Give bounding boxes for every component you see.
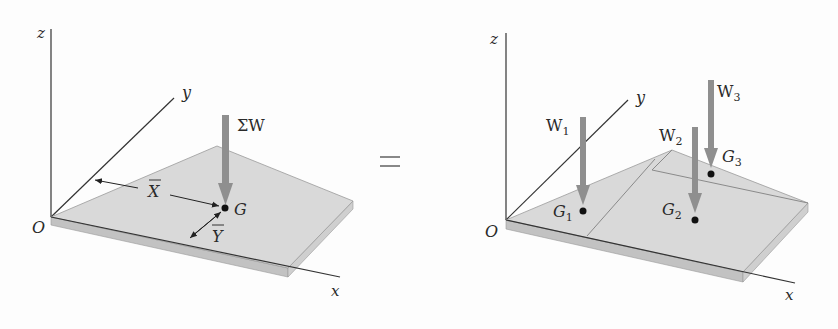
y-bar-label: Y xyxy=(212,225,224,246)
resultant-force-arrow-shaft xyxy=(222,115,229,185)
z-axis-label: z xyxy=(36,24,45,42)
g3-point xyxy=(708,171,715,178)
w3-label: W3 xyxy=(717,82,740,104)
g2-point xyxy=(692,217,699,224)
w3-arrow-shaft xyxy=(708,80,714,150)
y-axis-label: y xyxy=(181,83,192,102)
w1-arrow-shaft xyxy=(580,117,586,187)
g1-point xyxy=(580,208,587,215)
origin-label: O xyxy=(485,222,498,241)
w2-arrow-shaft xyxy=(692,127,698,195)
x-axis-label: x xyxy=(331,282,340,300)
y-axis-label: y xyxy=(635,88,646,107)
w1-label: W1 xyxy=(546,116,569,138)
equals-sign xyxy=(380,156,400,167)
centroid-label: G xyxy=(234,200,247,219)
resultant-force-label: ΣW xyxy=(237,116,265,135)
w2-label: W2 xyxy=(659,126,682,148)
centroid-diagram: z y x O ΣW G X Y xyxy=(0,0,838,329)
svg-text:Y: Y xyxy=(212,227,224,246)
centroid-point xyxy=(222,205,229,212)
svg-text:X: X xyxy=(146,182,160,201)
g3-label: G3 xyxy=(722,147,742,169)
right-figure: z y x O W1 W2 W3 G1 G2 G3 xyxy=(485,30,808,304)
z-axis-label: z xyxy=(489,30,498,48)
origin-label: O xyxy=(32,218,45,237)
x-axis-label: x xyxy=(785,286,794,304)
x-bar-label: X xyxy=(146,180,161,201)
left-figure: z y x O ΣW G X Y xyxy=(32,24,353,300)
